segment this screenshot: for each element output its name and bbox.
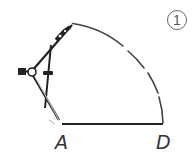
compass-icon (18, 25, 72, 124)
point-label-a: A (55, 133, 68, 152)
arc (73, 24, 164, 124)
point-label-d: D (156, 133, 171, 152)
